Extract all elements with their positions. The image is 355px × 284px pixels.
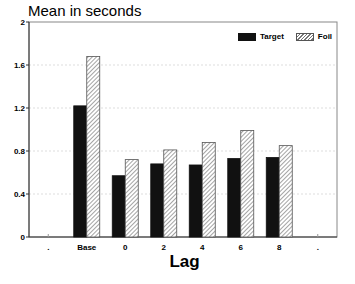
x-tick-label: . xyxy=(317,243,319,252)
y-tick-label: 0.8 xyxy=(14,147,26,156)
x-tick-label: 6 xyxy=(239,243,244,252)
y-tick-label: 1.2 xyxy=(14,104,26,113)
x-tick-label: Base xyxy=(77,243,97,252)
y-tick-label: 0.4 xyxy=(14,190,26,199)
y-tick-label: 1.6 xyxy=(14,61,26,70)
bar-chart: 00.40.81.21.62.Base02468. xyxy=(0,0,355,284)
legend-label-foil: Foil xyxy=(318,32,332,41)
legend-label-target: Target xyxy=(260,32,284,41)
bar-foil-4 xyxy=(202,142,215,237)
bar-target-0 xyxy=(112,176,125,237)
x-tick-label: 0 xyxy=(123,243,128,252)
bar-target-4 xyxy=(189,165,202,237)
x-tick-label: 2 xyxy=(162,243,167,252)
foil-swatch-icon xyxy=(296,33,314,41)
bars xyxy=(74,56,293,237)
bar-foil-8 xyxy=(279,146,292,237)
legend-item-target: Target xyxy=(238,32,284,41)
bar-target-6 xyxy=(228,159,241,237)
x-axis-label: Lag xyxy=(0,252,355,272)
legend-item-foil: Foil xyxy=(296,32,332,41)
bar-foil-6 xyxy=(241,131,254,237)
x-tick-label: 8 xyxy=(277,243,282,252)
bar-target-8 xyxy=(266,157,279,237)
x-tick-label: . xyxy=(47,243,49,252)
bar-target-Base xyxy=(74,106,87,237)
legend: Target Foil xyxy=(238,32,340,41)
bar-foil-0 xyxy=(125,160,138,237)
bar-foil-2 xyxy=(164,150,177,237)
target-swatch-icon xyxy=(238,33,256,41)
y-tick-label: 0 xyxy=(21,233,26,242)
y-tick-label: 2 xyxy=(21,18,26,27)
bar-foil-Base xyxy=(87,56,100,237)
x-tick-label: 4 xyxy=(200,243,205,252)
bar-target-2 xyxy=(151,164,164,237)
